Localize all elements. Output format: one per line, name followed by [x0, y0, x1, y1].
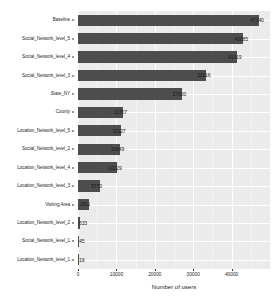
y-axis-tick-mark: [72, 241, 74, 242]
y-axis-tick-mark: [72, 204, 74, 205]
bar-row[interactable]: 45: [78, 236, 270, 247]
y-axis-label: Baseline: [53, 17, 70, 23]
bar-value-label: 633: [79, 220, 87, 226]
bar[interactable]: [78, 51, 237, 62]
x-axis-tick-mark: [78, 269, 79, 271]
bar-value-label: 19: [79, 257, 84, 263]
bar-row[interactable]: 5770: [78, 180, 270, 191]
y-axis-label: Location_Network_level_5: [17, 128, 70, 134]
bar-value-label: 41419: [228, 54, 241, 60]
bar-row[interactable]: 2811: [78, 199, 270, 210]
bar-row[interactable]: 19: [78, 254, 270, 265]
y-axis-tick-mark: [72, 75, 74, 76]
x-axis-tick-mark: [232, 269, 233, 271]
bar[interactable]: [78, 15, 259, 26]
y-axis-label: Social_Network_level_1: [22, 238, 70, 244]
y-axis-tick-mark: [72, 259, 74, 260]
y-axis-label: Location_Network_level_4: [17, 165, 70, 171]
bar-value-label: 45: [79, 238, 84, 244]
bar-row[interactable]: 10229: [78, 162, 270, 173]
y-axis-label: County: [56, 109, 70, 115]
bar-row[interactable]: 43085: [78, 33, 270, 44]
y-axis-label: Social_Network_level_4: [22, 54, 70, 60]
bars-layer: 4724043085414193331627000117071132710849…: [78, 11, 270, 269]
x-axis-ticks: 010000200003000040000: [78, 269, 270, 279]
x-axis-tick-mark: [155, 269, 156, 271]
y-axis-tick-mark: [72, 130, 74, 131]
bar-value-label: 2811: [80, 201, 90, 207]
y-axis-tick-mark: [72, 222, 74, 223]
y-axis-label: Location_Network_level_1: [17, 257, 70, 263]
y-axis-label: Social_Network_level_2: [22, 146, 70, 152]
y-axis-tick-mark: [72, 112, 74, 113]
bar-row[interactable]: 10849: [78, 144, 270, 155]
bar-row[interactable]: 47240: [78, 15, 270, 26]
y-axis-tick-mark: [72, 20, 74, 21]
bar-value-label: 5770: [91, 183, 102, 189]
bar-row[interactable]: 27000: [78, 88, 270, 99]
bar-row[interactable]: 11707: [78, 107, 270, 118]
bar[interactable]: [78, 70, 206, 81]
y-axis-label: Location_Network_level_2: [17, 220, 70, 226]
bar-value-label: 11327: [112, 128, 125, 134]
bar-value-label: 47240: [250, 17, 263, 23]
bar-value-label: 10229: [108, 165, 121, 171]
y-axis-tick-mark: [72, 57, 74, 58]
x-axis-tick-mark: [116, 269, 117, 271]
x-axis-tick-mark: [193, 269, 194, 271]
x-axis-tick-label: 0: [77, 272, 80, 278]
plot-panel: 4724043085414193331627000117071132710849…: [78, 11, 270, 269]
bar-row[interactable]: 11327: [78, 125, 270, 136]
bar-value-label: 33316: [197, 72, 210, 78]
bar[interactable]: [78, 33, 243, 44]
y-axis-label: Location_Network_level_3: [17, 183, 70, 189]
bar-row[interactable]: 33316: [78, 70, 270, 81]
bar-row[interactable]: 41419: [78, 51, 270, 62]
y-axis-labels: BaselineSocial_Network_level_5Social_Net…: [0, 11, 74, 269]
x-axis-tick-label: 40000: [225, 272, 238, 278]
y-axis-label: Visiting Area: [45, 202, 70, 208]
x-axis-tick-label: 20000: [148, 272, 161, 278]
x-axis-tick-label: 30000: [187, 272, 200, 278]
y-axis-label: Social_Network_level_3: [22, 73, 70, 79]
y-axis-tick-mark: [72, 93, 74, 94]
y-axis-tick-mark: [72, 149, 74, 150]
bar-value-label: 11707: [114, 109, 127, 115]
bar-value-label: 43085: [234, 36, 247, 42]
x-axis-tick-label: 10000: [110, 272, 123, 278]
y-axis-tick-mark: [72, 186, 74, 187]
x-axis-title: Number of users: [78, 283, 270, 291]
y-axis-label: Social_Network_level_5: [22, 36, 70, 42]
bar-value-label: 10849: [111, 146, 124, 152]
y-axis-label: State_NY: [51, 91, 70, 97]
bar[interactable]: [78, 88, 182, 99]
y-axis-tick-mark: [72, 167, 74, 168]
y-axis-tick-mark: [72, 38, 74, 39]
bar-value-label: 27000: [173, 91, 186, 97]
bar-chart: 4724043085414193331627000117071132710849…: [0, 0, 276, 301]
bar-row[interactable]: 633: [78, 217, 270, 228]
